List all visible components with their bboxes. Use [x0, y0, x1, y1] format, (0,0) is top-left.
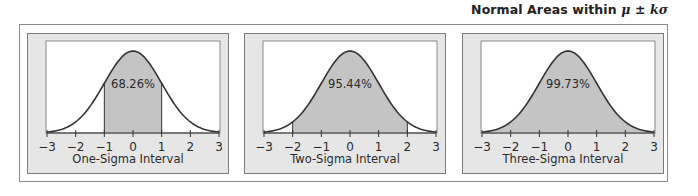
panel-caption: One-Sigma Interval: [28, 152, 228, 166]
panel-caption: Two-Sigma Interval: [245, 152, 445, 166]
area-percentage-label: 95.44%: [328, 77, 372, 91]
area-percentage-label: 68.26%: [111, 77, 155, 91]
panel-two-sigma: −3−2−1012395.44% Two-Sigma Interval: [244, 33, 446, 174]
area-percentage-label: 99.73%: [546, 77, 590, 91]
figure-title: Normal Areas within μ ± kσ: [471, 2, 668, 17]
figure-title-math: μ ± kσ: [621, 2, 668, 17]
panel-caption: Three-Sigma Interval: [463, 152, 663, 166]
panel-one-sigma: −3−2−1012368.26% One-Sigma Interval: [27, 33, 229, 174]
panel-three-sigma: −3−2−1012399.73% Three-Sigma Interval: [462, 33, 664, 174]
figure-title-text: Normal Areas within: [471, 2, 621, 17]
